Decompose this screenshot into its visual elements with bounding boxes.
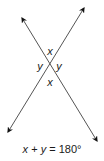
- line-a: [8, 8, 84, 132]
- intersecting-lines-diagram: x y y x x + y = 180°: [0, 0, 104, 161]
- line-b: [22, 18, 97, 141]
- angle-label-left: y: [36, 60, 44, 72]
- angle-label-bottom: x: [46, 76, 53, 88]
- equation-rest: = 180°: [46, 143, 81, 155]
- angle-label-right: y: [55, 60, 63, 72]
- equation-plus: +: [28, 143, 41, 155]
- angle-label-top: x: [46, 45, 53, 57]
- equation: x + y = 180°: [22, 143, 82, 155]
